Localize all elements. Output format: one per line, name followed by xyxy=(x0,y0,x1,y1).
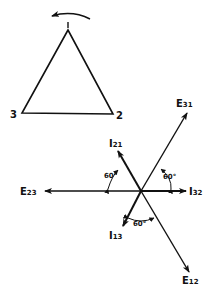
angle-markers: 60° 60° 60° xyxy=(104,169,176,228)
delta-triangle: 3 2 xyxy=(10,14,123,121)
angle-label-right: 60° xyxy=(163,173,176,181)
label-I21: I21 xyxy=(109,138,123,149)
label-I32: I32 xyxy=(189,186,203,197)
angle-label-left: 60° xyxy=(104,172,117,180)
label-E23: E23 xyxy=(20,186,37,197)
label-E12: E12 xyxy=(182,275,199,286)
phasor-diagram: 3 2 60° 60° 60° E23 I32 E31 E12 I21 I13 xyxy=(0,0,215,291)
label-E31: E31 xyxy=(176,98,193,109)
phasor-E12 xyxy=(141,191,189,272)
vertex-label-2: 2 xyxy=(116,110,123,121)
rotation-arrow-icon xyxy=(52,14,90,19)
triangle-outline xyxy=(22,30,113,114)
angle-label-bottom: 60° xyxy=(133,220,146,228)
phasor-lines xyxy=(45,113,189,272)
phasor-I21 xyxy=(118,151,141,191)
label-I13: I13 xyxy=(109,230,123,241)
vertex-label-3: 3 xyxy=(10,109,17,120)
